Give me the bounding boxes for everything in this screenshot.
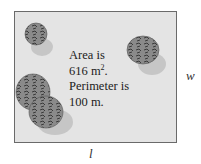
caption-line-1: Area is <box>69 48 129 64</box>
caption-line-2: 616 m2. <box>69 64 129 80</box>
length-label: l <box>89 146 93 162</box>
area-perimeter-caption: Area is 616 m2. Perimeter is 100 m. <box>69 48 129 110</box>
caption-line-4: 100 m. <box>69 95 129 111</box>
width-label: w <box>186 68 195 84</box>
bush-top-right <box>127 36 166 75</box>
bush-bottom-left <box>16 74 73 135</box>
area-suffix: . <box>105 64 108 78</box>
bush-top-left <box>25 23 53 56</box>
area-value: 616 m <box>69 64 101 78</box>
caption-line-3: Perimeter is <box>69 79 129 95</box>
